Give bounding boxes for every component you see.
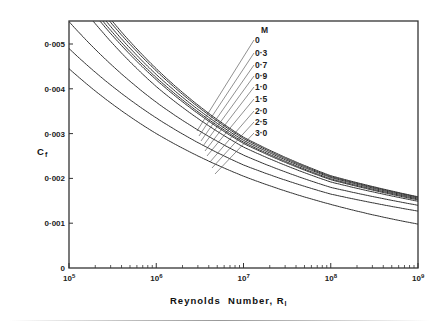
bottom-divider xyxy=(10,320,430,321)
legend-label-M: 0·9 xyxy=(255,71,268,81)
x-tick-label: 105 xyxy=(63,273,76,283)
curve-M-0·9 xyxy=(69,0,418,199)
y-tick-label: 0·002 xyxy=(45,174,66,183)
legend: M 00·30·70·91·01·52·02·53·0 xyxy=(255,25,268,138)
x-axis-ticks: 105106107108109 xyxy=(63,263,425,283)
y-axis-title: Cf xyxy=(37,146,48,158)
legend-label-M: 0·7 xyxy=(255,60,268,70)
legend-label-M: 2·5 xyxy=(255,117,268,127)
plot-frame xyxy=(69,21,418,268)
legend-label-M: 0 xyxy=(255,35,260,45)
legend-title: M xyxy=(261,25,268,35)
curve-M-0 xyxy=(69,0,418,197)
legend-label-M: 1·0 xyxy=(255,82,268,92)
legend-label-M: 3·0 xyxy=(255,128,268,138)
x-tick-label: 109 xyxy=(412,273,425,283)
legend-label-M: 1·5 xyxy=(255,94,268,104)
y-tick-label: 0·005 xyxy=(45,40,66,49)
curve-M-1·0 xyxy=(69,0,418,200)
legend-leader-lines xyxy=(197,40,254,174)
x-tick-label: 108 xyxy=(325,273,338,283)
x-tick-label: 107 xyxy=(238,273,251,283)
y-tick-label: 0·004 xyxy=(45,85,66,94)
y-tick-label: 0 xyxy=(61,264,66,273)
y-tick-label: 0·003 xyxy=(45,130,66,139)
x-axis-title: Reynolds Number, Rl xyxy=(170,295,288,307)
curve-M-0·3 xyxy=(69,0,418,197)
x-tick-label: 106 xyxy=(150,273,163,283)
curve-M-2·0 xyxy=(69,22,418,206)
curve-M-0·7 xyxy=(69,0,418,198)
curve-M-3·0 xyxy=(69,69,418,225)
legend-label-M: 0·3 xyxy=(255,48,268,58)
legend-label-M: 2·0 xyxy=(255,106,268,116)
y-tick-label: 0·001 xyxy=(45,219,66,228)
skin-friction-chart: 105106107108109 00·0010·0020·0030·0040·0… xyxy=(0,0,448,328)
